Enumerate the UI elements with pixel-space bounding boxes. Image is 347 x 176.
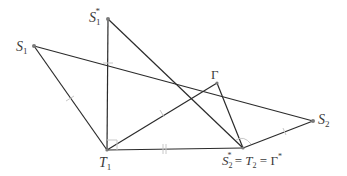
geometry-diagram: S1* S1 Γ S2 T1 S2* = T2 = Γ* <box>0 0 347 176</box>
label-s2star-t2-gamma-star: S2* = T2 = Γ* <box>222 151 282 170</box>
segment-t1-t2 <box>107 148 243 150</box>
segments <box>34 19 313 150</box>
point-s2 <box>311 119 315 123</box>
label-s1: S1 <box>16 39 28 56</box>
point-s1star <box>106 17 110 21</box>
segment-t2-s2 <box>243 121 313 148</box>
segment-s1star-t2 <box>108 19 243 148</box>
label-s2: S2 <box>318 112 330 129</box>
label-s1star: S1* <box>89 6 101 27</box>
points <box>32 17 315 152</box>
label-t1: T1 <box>99 155 111 172</box>
segment-s1star-t1 <box>107 19 108 150</box>
point-t1 <box>105 148 108 151</box>
segment-t1-gamma <box>107 83 217 150</box>
point-t2 <box>241 146 244 149</box>
label-gamma: Γ <box>211 67 219 82</box>
point-s1 <box>32 44 36 48</box>
